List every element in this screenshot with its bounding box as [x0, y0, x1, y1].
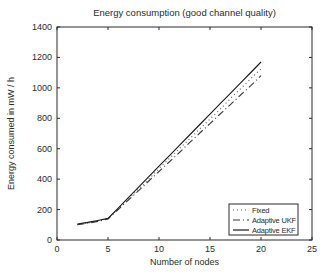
legend-label-adaptive-ekf: Adaptive EKF: [252, 226, 296, 235]
y-tick-label: 1000: [32, 83, 52, 93]
legend-label-adaptive-ukf: Adaptive UKF: [252, 216, 296, 225]
x-tick-label: 20: [256, 244, 266, 254]
series-line-adaptive-ekf: [77, 62, 261, 224]
y-tick-label: 800: [37, 113, 52, 123]
chart-canvas: Energy consumption (good channel quality…: [0, 0, 336, 275]
legend: Fixed Adaptive UKF Adaptive EKF: [229, 204, 298, 235]
x-tick-label: 0: [54, 244, 59, 254]
x-tick-label: 10: [154, 244, 164, 254]
energy-consumption-chart: Energy consumption (good channel quality…: [0, 0, 336, 275]
data-series: [77, 62, 261, 225]
legend-label-fixed: Fixed: [252, 206, 269, 215]
y-tick-label: 400: [37, 174, 52, 184]
series-line-fixed: [77, 69, 261, 225]
y-tick-label: 0: [47, 235, 52, 245]
x-tick-label: 25: [307, 244, 317, 254]
x-axis-label: Number of nodes: [150, 257, 220, 267]
x-tick-label: 15: [205, 244, 215, 254]
y-tick-label: 1200: [32, 52, 52, 62]
y-tick-label: 600: [37, 144, 52, 154]
y-tick-label: 1400: [32, 22, 52, 32]
series-line-adaptive-ukf: [77, 76, 261, 225]
y-axis-label: Energy consumed in mW / h: [6, 77, 16, 190]
chart-title: Energy consumption (good channel quality…: [93, 7, 276, 18]
x-tick-label: 5: [105, 244, 110, 254]
y-tick-label: 200: [37, 205, 52, 215]
